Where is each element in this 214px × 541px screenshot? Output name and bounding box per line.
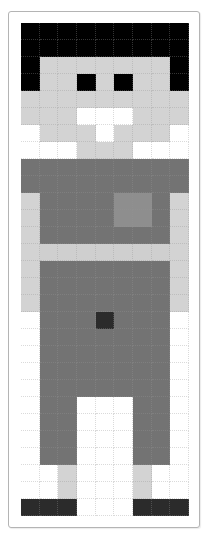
pixel-cell[interactable] xyxy=(133,142,152,159)
pixel-cell[interactable] xyxy=(21,499,40,516)
pixel-cell[interactable] xyxy=(96,108,115,125)
pixel-cell[interactable] xyxy=(40,261,59,278)
pixel-cell[interactable] xyxy=(58,278,77,295)
pixel-cell[interactable] xyxy=(21,278,40,295)
pixel-cell[interactable] xyxy=(40,108,59,125)
pixel-cell[interactable] xyxy=(21,91,40,108)
pixel-cell[interactable] xyxy=(133,465,152,482)
pixel-cell[interactable] xyxy=(114,210,133,227)
pixel-cell[interactable] xyxy=(133,482,152,499)
pixel-cell[interactable] xyxy=(58,125,77,142)
pixel-cell[interactable] xyxy=(58,448,77,465)
pixel-cell[interactable] xyxy=(58,227,77,244)
pixel-cell[interactable] xyxy=(58,499,77,516)
pixel-cell[interactable] xyxy=(21,363,40,380)
pixel-cell[interactable] xyxy=(152,261,171,278)
pixel-cell[interactable] xyxy=(96,363,115,380)
pixel-cell[interactable] xyxy=(21,176,40,193)
pixel-cell[interactable] xyxy=(96,295,115,312)
pixel-cell[interactable] xyxy=(96,448,115,465)
pixel-cell[interactable] xyxy=(96,329,115,346)
pixel-cell[interactable] xyxy=(96,312,115,329)
pixel-cell[interactable] xyxy=(114,40,133,57)
pixel-cell[interactable] xyxy=(133,312,152,329)
pixel-cell[interactable] xyxy=(58,176,77,193)
pixel-cell[interactable] xyxy=(133,108,152,125)
pixel-cell[interactable] xyxy=(152,244,171,261)
pixel-cell[interactable] xyxy=(21,244,40,261)
pixel-cell[interactable] xyxy=(133,125,152,142)
pixel-cell[interactable] xyxy=(40,193,59,210)
pixel-cell[interactable] xyxy=(77,74,96,91)
pixel-cell[interactable] xyxy=(77,261,96,278)
pixel-cell[interactable] xyxy=(170,176,189,193)
pixel-cell[interactable] xyxy=(152,23,171,40)
pixel-cell[interactable] xyxy=(133,414,152,431)
pixel-cell[interactable] xyxy=(133,193,152,210)
pixel-cell[interactable] xyxy=(40,448,59,465)
pixel-cell[interactable] xyxy=(40,295,59,312)
pixel-cell[interactable] xyxy=(40,244,59,261)
pixel-cell[interactable] xyxy=(152,397,171,414)
pixel-cell[interactable] xyxy=(114,142,133,159)
pixel-cell[interactable] xyxy=(40,91,59,108)
pixel-cell[interactable] xyxy=(40,23,59,40)
pixel-cell[interactable] xyxy=(170,108,189,125)
pixel-cell[interactable] xyxy=(77,448,96,465)
pixel-cell[interactable] xyxy=(77,108,96,125)
pixel-cell[interactable] xyxy=(40,125,59,142)
pixel-cell[interactable] xyxy=(114,74,133,91)
pixel-cell[interactable] xyxy=(58,193,77,210)
pixel-cell[interactable] xyxy=(21,380,40,397)
pixel-cell[interactable] xyxy=(170,91,189,108)
pixel-cell[interactable] xyxy=(77,346,96,363)
pixel-cell[interactable] xyxy=(40,278,59,295)
pixel-cell[interactable] xyxy=(77,312,96,329)
pixel-cell[interactable] xyxy=(77,193,96,210)
pixel-cell[interactable] xyxy=(133,91,152,108)
pixel-cell[interactable] xyxy=(77,482,96,499)
pixel-cell[interactable] xyxy=(170,482,189,499)
pixel-cell[interactable] xyxy=(133,346,152,363)
pixel-cell[interactable] xyxy=(58,210,77,227)
pixel-cell[interactable] xyxy=(40,159,59,176)
pixel-cell[interactable] xyxy=(58,142,77,159)
pixel-cell[interactable] xyxy=(152,431,171,448)
pixel-cell[interactable] xyxy=(114,108,133,125)
pixel-cell[interactable] xyxy=(58,312,77,329)
pixel-cell[interactable] xyxy=(77,142,96,159)
pixel-cell[interactable] xyxy=(96,40,115,57)
pixel-cell[interactable] xyxy=(96,57,115,74)
pixel-cell[interactable] xyxy=(40,227,59,244)
pixel-cell[interactable] xyxy=(96,244,115,261)
pixel-cell[interactable] xyxy=(133,74,152,91)
pixel-cell[interactable] xyxy=(114,414,133,431)
pixel-cell[interactable] xyxy=(21,142,40,159)
pixel-cell[interactable] xyxy=(21,397,40,414)
pixel-cell[interactable] xyxy=(170,40,189,57)
pixel-cell[interactable] xyxy=(170,125,189,142)
pixel-cell[interactable] xyxy=(114,363,133,380)
pixel-cell[interactable] xyxy=(96,227,115,244)
pixel-cell[interactable] xyxy=(77,159,96,176)
pixel-cell[interactable] xyxy=(40,363,59,380)
pixel-cell[interactable] xyxy=(58,244,77,261)
pixel-cell[interactable] xyxy=(58,23,77,40)
pixel-cell[interactable] xyxy=(77,414,96,431)
pixel-cell[interactable] xyxy=(152,227,171,244)
pixel-cell[interactable] xyxy=(133,227,152,244)
pixel-cell[interactable] xyxy=(170,414,189,431)
pixel-cell[interactable] xyxy=(114,482,133,499)
pixel-cell[interactable] xyxy=(21,57,40,74)
pixel-cell[interactable] xyxy=(152,125,171,142)
pixel-cell[interactable] xyxy=(21,414,40,431)
pixel-cell[interactable] xyxy=(114,57,133,74)
pixel-cell[interactable] xyxy=(58,431,77,448)
pixel-cell[interactable] xyxy=(170,278,189,295)
pixel-cell[interactable] xyxy=(21,159,40,176)
pixel-cell[interactable] xyxy=(96,74,115,91)
pixel-cell[interactable] xyxy=(152,482,171,499)
pixel-cell[interactable] xyxy=(133,261,152,278)
pixel-cell[interactable] xyxy=(58,159,77,176)
pixel-cell[interactable] xyxy=(96,261,115,278)
